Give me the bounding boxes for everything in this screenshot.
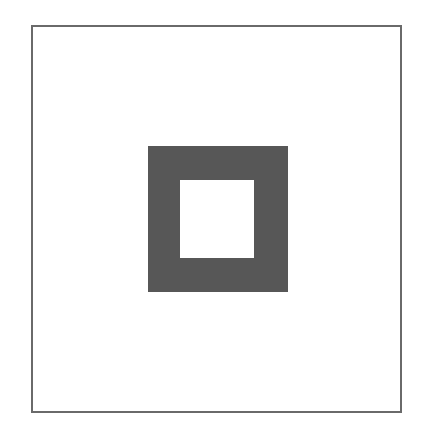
inner-white-square: [180, 180, 254, 258]
